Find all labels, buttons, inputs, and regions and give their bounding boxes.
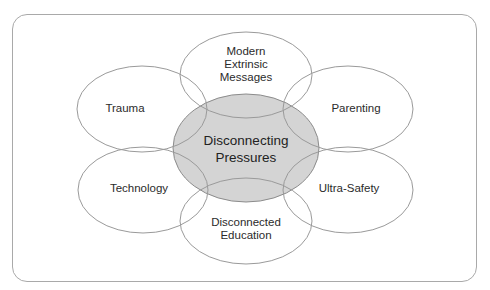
- label-line: Extrinsic: [220, 58, 272, 71]
- label-line: Ultra-Safety: [319, 182, 380, 195]
- label-line: Education: [211, 229, 281, 242]
- label-disconnecting-pressures: Disconnecting Pressures: [204, 132, 289, 166]
- label-line: Trauma: [105, 102, 144, 115]
- label-parenting: Parenting: [331, 102, 380, 115]
- label-line: Messages: [220, 71, 272, 84]
- label-line: Pressures: [204, 149, 289, 166]
- label-modern-extrinsic-messages: Modern Extrinsic Messages: [220, 45, 272, 84]
- label-disconnected-education: Disconnected Education: [211, 216, 281, 242]
- label-line: Disconnecting: [204, 132, 289, 149]
- label-line: Parenting: [331, 102, 380, 115]
- label-trauma: Trauma: [105, 102, 144, 115]
- label-line: Modern: [220, 45, 272, 58]
- label-line: Disconnected: [211, 216, 281, 229]
- label-technology: Technology: [110, 182, 168, 195]
- label-ultra-safety: Ultra-Safety: [319, 182, 380, 195]
- label-line: Technology: [110, 182, 168, 195]
